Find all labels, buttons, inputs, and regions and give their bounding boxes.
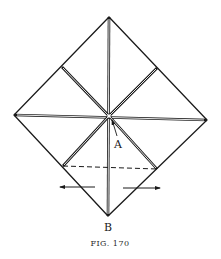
- dashed-fold-line: [63, 166, 157, 169]
- center-point: [107, 114, 111, 118]
- label-b: B: [104, 221, 112, 234]
- crease-diag-upper-right: [109, 68, 157, 116]
- figure-caption: FIG. 170: [90, 239, 129, 248]
- crease-diag-upper-left: [62, 67, 109, 116]
- crease-lines: [14, 17, 207, 216]
- label-a: A: [113, 138, 123, 151]
- crease-diag-lower-left: [63, 116, 109, 166]
- origami-fold-diagram: A B FIG. 170: [0, 0, 221, 259]
